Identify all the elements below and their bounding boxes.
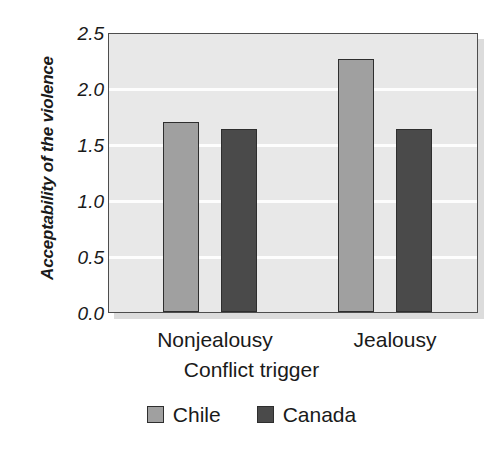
legend-swatch-canada-icon	[257, 406, 274, 423]
legend-item-canada: Canada	[257, 404, 357, 425]
x-category-label-nonjealousy: Nonjealousy	[110, 328, 320, 352]
x-category-label-jealousy: Jealousy	[300, 328, 490, 352]
bar-nonjealousy-canada	[221, 129, 257, 312]
bar-jealousy-chile	[338, 59, 374, 312]
y-tick-label-0-5: 0.5	[56, 248, 104, 267]
legend-item-chile: Chile	[147, 404, 221, 425]
y-tick-label-0-0: 0.0	[56, 304, 104, 323]
legend-label-canada: Canada	[283, 404, 357, 425]
y-tick-label-2-0: 2.0	[56, 80, 104, 99]
x-axis-title: Conflict trigger	[0, 358, 503, 382]
bar-chart-figure: Acceptability of the violence 2.5 2.0 1.…	[0, 0, 503, 453]
bar-jealousy-canada	[396, 129, 432, 312]
bar-nonjealousy-chile	[163, 122, 199, 312]
legend-swatch-chile-icon	[147, 406, 164, 423]
y-tick-label-1-5: 1.5	[56, 136, 104, 155]
y-tick-label-1-0: 1.0	[56, 192, 104, 211]
y-tick-label-2-5: 2.5	[56, 24, 104, 43]
legend-label-chile: Chile	[173, 404, 221, 425]
y-axis-tick-labels: 2.5 2.0 1.5 1.0 0.5 0.0	[52, 0, 104, 453]
gridline-2-0	[109, 88, 477, 91]
plot-area	[108, 33, 478, 313]
chart-legend: Chile Canada	[0, 404, 503, 425]
